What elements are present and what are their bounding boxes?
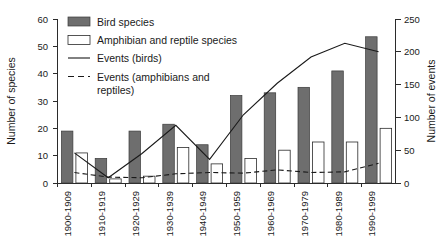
amphibian-reptile-bar bbox=[346, 142, 358, 183]
legend-filled-swatch-icon bbox=[68, 17, 90, 26]
x-axis-category-label: 1900-1909 bbox=[62, 191, 73, 236]
left-tick-label-0: 0 bbox=[43, 178, 48, 189]
x-axis-labels: 1900-19091910-19191920-19291930-19391940… bbox=[62, 191, 377, 236]
bird-species-bar bbox=[298, 87, 310, 183]
left-tick-label-60: 60 bbox=[37, 14, 48, 25]
right-tick-label-200: 200 bbox=[404, 46, 420, 57]
bird-species-bar bbox=[230, 96, 242, 183]
x-axis-category-label: 1920-1929 bbox=[130, 191, 141, 236]
x-axis-category-label: 1980-1989 bbox=[333, 191, 344, 236]
left-axis-title: Number of species bbox=[5, 57, 17, 145]
x-axis-category-label: 1950-1959 bbox=[231, 191, 242, 236]
x-axis-category-label: 1960-1969 bbox=[265, 191, 276, 236]
x-axis-category-label: 1910-1919 bbox=[96, 191, 107, 236]
x-axis-category-label: 1990-1999 bbox=[366, 191, 377, 236]
amphibian-reptile-bar bbox=[245, 158, 257, 183]
legend-label-bird-species: Bird species bbox=[97, 16, 154, 28]
x-axis: 1900-19091910-19191920-19291930-19391940… bbox=[58, 183, 396, 236]
legend-label-amphibian-reptile-species: Amphibian and reptile species bbox=[97, 34, 237, 46]
bird-species-bar bbox=[129, 131, 141, 183]
legend-label-events-amphibians-reptiles-cont: reptiles) bbox=[97, 84, 134, 96]
left-tick-label-10: 10 bbox=[37, 150, 48, 161]
bird-species-bar bbox=[366, 37, 378, 183]
amphibian-reptile-bar bbox=[177, 147, 189, 183]
amphibian-reptile-bar bbox=[110, 179, 122, 183]
right-tick-label-50: 50 bbox=[404, 145, 415, 156]
amphibian-reptile-bar bbox=[76, 153, 88, 183]
left-tick-label-20: 20 bbox=[37, 123, 48, 134]
right-tick-label-100: 100 bbox=[404, 112, 420, 123]
bird-species-bar bbox=[264, 93, 276, 183]
bird-species-bar bbox=[61, 131, 73, 183]
right-axis: 250 200 150 100 50 0 Number of events bbox=[396, 14, 438, 189]
x-axis-category-label: 1940-1949 bbox=[197, 191, 208, 236]
amphibian-reptile-bar bbox=[211, 164, 223, 183]
amphibian-reptile-bar bbox=[279, 150, 291, 183]
legend-label-events-birds: Events (birds) bbox=[97, 52, 162, 64]
right-tick-label-0: 0 bbox=[404, 178, 409, 189]
legend-label-events-amphibians-reptiles: Events (amphibians and bbox=[97, 71, 210, 83]
x-axis-category-label: 1970-1979 bbox=[299, 191, 310, 236]
left-tick-label-50: 50 bbox=[37, 41, 48, 52]
left-axis: 60 50 40 30 20 10 0 Number of species bbox=[5, 14, 58, 189]
bird-species-bar bbox=[95, 158, 107, 183]
x-axis-category-label: 1930-1939 bbox=[164, 191, 175, 236]
left-tick-label-40: 40 bbox=[37, 68, 48, 79]
species-events-chart: 60 50 40 30 20 10 0 Number of species 25… bbox=[0, 0, 445, 246]
amphibian-reptile-bar bbox=[380, 128, 392, 183]
chart-container: 60 50 40 30 20 10 0 Number of species 25… bbox=[0, 0, 445, 246]
right-tick-label-250: 250 bbox=[404, 14, 420, 25]
legend-open-swatch-icon bbox=[68, 36, 90, 45]
chart-legend: Bird species Amphibian and reptile speci… bbox=[68, 16, 237, 97]
right-tick-label-150: 150 bbox=[404, 79, 420, 90]
left-tick-label-30: 30 bbox=[37, 96, 48, 107]
bird-species-bar bbox=[197, 145, 209, 183]
amphibian-reptile-bar bbox=[313, 142, 325, 183]
bird-species-bar bbox=[332, 71, 344, 183]
right-axis-title: Number of events bbox=[425, 60, 437, 143]
